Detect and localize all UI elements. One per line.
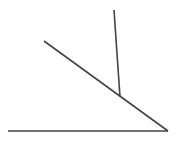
- diagram-canvas: [0, 0, 179, 142]
- diagram-background: [0, 0, 179, 142]
- angle-diagram-figure: [0, 0, 179, 142]
